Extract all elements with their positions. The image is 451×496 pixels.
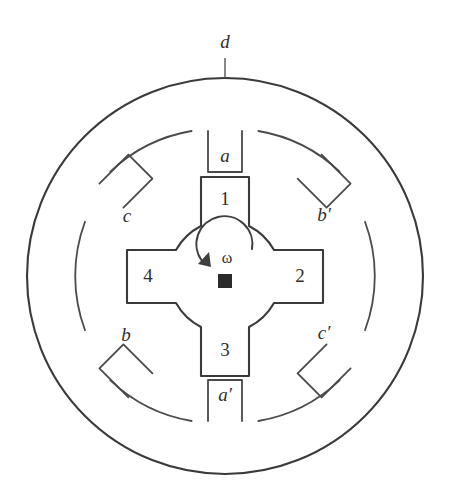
shaft-center-marker	[218, 274, 232, 288]
label-stator-pole-a: a	[220, 145, 230, 166]
label-stator-pole-c: c	[123, 205, 132, 226]
label-rotor-pole-4: 4	[143, 265, 153, 286]
stator-bore-arc-left	[75, 222, 85, 330]
label-stator-pole-b: b	[121, 324, 131, 345]
stator-bore-arc-right	[365, 222, 375, 330]
stator-bore-arc-bottom-left	[110, 380, 191, 421]
stator-bore-arc-top-right	[258, 131, 339, 172]
label-outer-frame-d: d	[220, 31, 230, 52]
label-stator-pole-b-prime: b′	[317, 204, 332, 225]
label-stator-pole-a-prime: a′	[218, 384, 233, 405]
stator-bore-arc-bottom-right	[258, 380, 339, 421]
stator-pole-c-shape	[99, 155, 152, 208]
label-rotor-pole-3: 3	[220, 339, 230, 360]
label-angular-velocity-omega: ω	[222, 249, 233, 266]
label-stator-pole-c-prime: c′	[318, 322, 331, 343]
label-rotor-pole-1: 1	[220, 188, 230, 209]
stator-pole-c-prime-shape	[298, 344, 351, 397]
motor-diagram-canvas: d ω a b′ c′	[0, 0, 451, 496]
stator-bore-arc-top-left	[110, 131, 191, 172]
stator-pole-b-prime-shape	[298, 155, 351, 208]
stator-pole-b-shape	[99, 344, 152, 397]
label-rotor-pole-2: 2	[295, 265, 305, 286]
motor-cross-section-diagram: d ω a b′ c′	[0, 0, 451, 496]
